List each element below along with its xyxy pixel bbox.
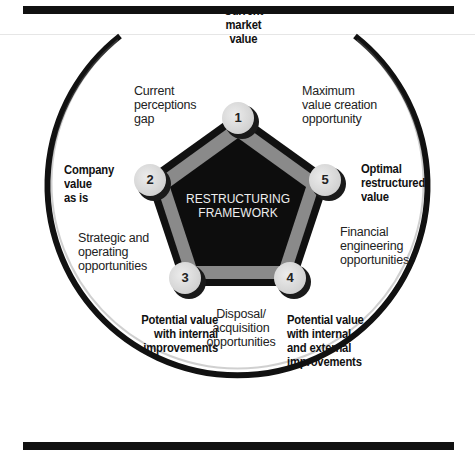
node-1-label: Current market value [220,4,267,46]
node-5-label: Optimal restructured value [361,162,425,204]
edge-1-5-label: Maximum value creation opportunity [302,84,377,126]
bottom-rule [23,442,454,450]
node-2-label: Company value as is [64,163,114,205]
edge-1-2-label: Current perceptions gap [134,84,196,126]
framework-title-line1: RESTRUCTURING [178,192,298,206]
node-5-number: 5 [313,172,337,187]
framework-title-line2: FRAMEWORK [178,206,298,220]
edge-3-4-label: Disposal/ acquisition opportunities [204,307,278,349]
node-2-number: 2 [138,172,162,187]
framework-title: RESTRUCTURING FRAMEWORK [178,192,298,220]
edge-2-3-label: Strategic and operating opportunities [78,231,149,273]
node-4-label: Potential value with internal and extern… [287,313,364,369]
node-3-number: 3 [173,270,197,285]
node-4-number: 4 [278,270,302,285]
edge-4-5-label: Financial engineering opportunities [340,225,409,267]
node-1-number: 1 [226,110,250,125]
